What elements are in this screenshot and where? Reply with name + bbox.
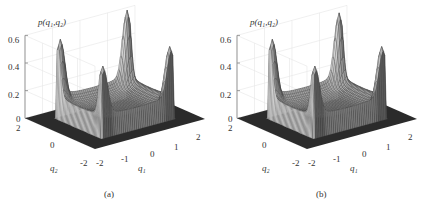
caption-b: (b) [316,189,327,199]
x-tick-1: 1 [174,143,179,152]
panel-b: p(q₁,q₂) 0.6 0.4 0.2 0 2 0 -2 q₂ -2 -1 0… [212,0,424,207]
x-tick-0: 0 [362,150,367,159]
x-axis-label: q₁ [138,164,146,173]
surface-plot-a [0,0,212,207]
surface-mesh [54,10,176,139]
x-tick-1: 1 [386,143,391,152]
z-tick-0.2: 0.2 [220,91,231,100]
panel-a: p(q₁,q₂) 0.6 0.4 0.2 0 2 0 -2 q₂ -2 -1 0… [0,0,212,207]
z-tick-0.6: 0.6 [220,36,231,45]
x-tick-neg1: -1 [121,155,129,164]
x-tick-0: 0 [150,150,155,159]
z-tick-0.6: 0.6 [8,36,19,45]
caption-a: (a) [104,189,114,199]
x-tick-neg2: -2 [308,159,316,168]
x-tick-neg2: -2 [96,159,104,168]
y-tick-2: 2 [228,124,233,133]
y-tick-0: 0 [262,141,267,150]
x-axis-label: q₁ [350,164,358,173]
y-tick-neg2: -2 [80,159,88,168]
surface-mesh [266,13,388,139]
y-tick-neg2: -2 [292,159,300,168]
x-tick-neg1: -1 [333,155,341,164]
surface-plot-b [212,0,424,207]
z-tick-0.2: 0.2 [8,91,19,100]
z-tick-0.4: 0.4 [220,63,231,72]
y-tick-0: 0 [50,141,55,150]
y-tick-2: 2 [16,124,21,133]
y-axis-label: q₂ [262,164,270,173]
z-tick-0.4: 0.4 [8,63,19,72]
z-axis-label: p(q₁,q₂) [38,18,66,27]
x-tick-2: 2 [196,133,201,142]
z-axis-label: p(q₁,q₂) [250,18,278,27]
y-axis-label: q₂ [50,164,58,173]
x-tick-2: 2 [408,133,413,142]
